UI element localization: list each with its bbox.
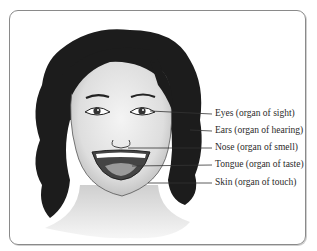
label-tongue: Tongue (organ of taste)	[215, 160, 304, 170]
label-eyes: Eyes (organ of sight)	[215, 109, 295, 119]
label-ears: Ears (organ of hearing)	[215, 126, 303, 136]
label-skin: Skin (organ of touch)	[215, 178, 296, 188]
label-nose: Nose (organ of smell)	[215, 143, 298, 153]
